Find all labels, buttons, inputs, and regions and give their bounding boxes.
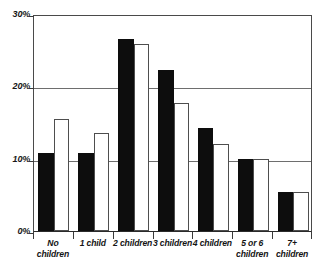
bar-hollow-0 [54,119,70,231]
y-axis-tick-label: 10% [2,155,30,164]
x-axis-label-5: 5 or 6 children [232,238,272,260]
x-axis-category-labels: No children1 child2 children3 children4 … [33,238,312,268]
bar-solid-1 [78,153,94,231]
bar-hollow-3 [174,103,190,231]
bar-solid-0 [38,153,54,231]
x-axis-label-2: 2 children [113,238,153,249]
bars-layer [34,16,311,231]
bar-hollow-1 [94,133,110,231]
x-axis-label-6: 7+ children [272,238,312,260]
y-axis-tick-label: 30% [2,10,30,19]
plot-area [33,15,312,232]
y-axis-tick-label: 0% [2,227,30,236]
bar-hollow-2 [134,44,150,231]
y-axis-tick-label: 20% [2,82,30,91]
bar-hollow-6 [293,192,309,231]
bar-hollow-5 [253,159,269,231]
bar-solid-3 [158,70,174,231]
x-axis-label-0: No children [33,238,73,260]
x-axis-label-1: 1 child [73,238,113,249]
bar-solid-6 [278,192,294,231]
x-axis-label-4: 4 children [192,238,232,249]
y-axis-tick-labels: 30%20%10%0% [0,0,30,268]
bar-solid-5 [238,159,254,231]
x-axis-label-3: 3 children [153,238,193,249]
bar-chart: 30%20%10%0% No children1 child2 children… [0,0,320,268]
bar-solid-4 [198,128,214,231]
bar-hollow-4 [213,144,229,231]
bar-solid-2 [118,39,134,231]
